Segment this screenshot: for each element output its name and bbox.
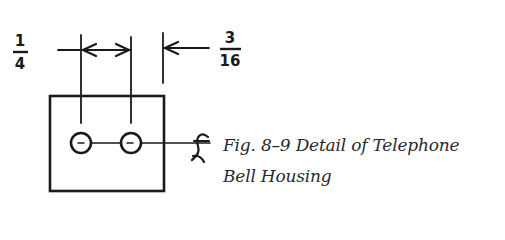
centerline-symbol-icon: [192, 135, 209, 162]
svg-text:4: 4: [15, 55, 25, 73]
dimension-label-three-sixteenths: 3 16: [220, 29, 241, 70]
figure-caption: Fig. 8–9 Detail of Telephone Bell Housin…: [223, 130, 459, 192]
svg-text:1: 1: [15, 32, 25, 50]
caption-line-1: Fig. 8–9 Detail of Telephone: [223, 130, 459, 161]
dimension-label-quarter: 1 4: [13, 32, 28, 73]
caption-line-2: Bell Housing: [223, 161, 459, 192]
svg-text:3: 3: [225, 29, 235, 47]
svg-text:16: 16: [220, 52, 241, 70]
